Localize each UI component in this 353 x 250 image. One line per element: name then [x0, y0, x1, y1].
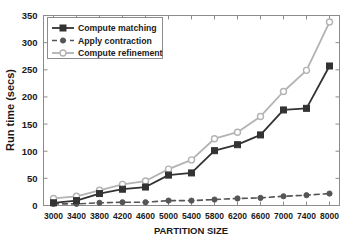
- data-point: [304, 67, 310, 73]
- data-point: [281, 194, 286, 199]
- line-chart: 050100150200250300350 300034003800420046…: [0, 0, 353, 250]
- data-point: [97, 191, 103, 197]
- data-point: [189, 198, 194, 203]
- data-point: [189, 170, 195, 176]
- x-tick-label: 5000: [159, 211, 178, 221]
- data-point: [258, 113, 264, 119]
- data-point: [281, 89, 287, 95]
- x-tick-label: 6200: [228, 211, 247, 221]
- x-tick-label: 4600: [136, 211, 155, 221]
- x-tick-label: 4200: [113, 211, 132, 221]
- legend-label: Compute refinement: [78, 48, 163, 58]
- y-tick-label: 50: [27, 173, 38, 184]
- x-tick-label: 8000: [320, 211, 339, 221]
- legend-label: Compute matching: [78, 23, 157, 33]
- x-tick-label: 3400: [67, 211, 86, 221]
- data-point: [304, 193, 309, 198]
- data-point: [235, 129, 241, 135]
- y-tick-label: 350: [22, 10, 38, 21]
- data-point: [212, 197, 217, 202]
- data-point: [327, 191, 332, 196]
- y-tick-label: 0: [32, 200, 37, 211]
- data-point: [327, 19, 333, 25]
- data-point: [97, 200, 102, 205]
- data-point: [143, 178, 149, 184]
- y-axis-title: Run time (secs): [4, 69, 16, 151]
- legend-marker: [60, 50, 66, 56]
- data-point: [74, 198, 80, 204]
- legend-marker: [60, 25, 66, 31]
- data-point: [304, 105, 310, 111]
- legend-label: Apply contraction: [78, 36, 152, 46]
- y-tick-label: 100: [22, 146, 38, 157]
- data-point: [166, 198, 171, 203]
- data-point: [120, 200, 125, 205]
- legend-marker: [60, 38, 65, 43]
- chart-legend: Compute matchingApply contractionCompute…: [48, 18, 163, 59]
- x-tick-label: 7400: [297, 211, 316, 221]
- data-point: [235, 142, 241, 148]
- data-point: [166, 172, 172, 178]
- data-point: [327, 63, 333, 69]
- y-tick-label: 300: [22, 37, 38, 48]
- chart-figure: 050100150200250300350 300034003800420046…: [0, 0, 353, 250]
- x-tick-label: 7000: [274, 211, 293, 221]
- y-tick-label: 200: [22, 91, 38, 102]
- x-tick-label: 6600: [251, 211, 270, 221]
- data-point: [258, 132, 264, 138]
- data-point: [281, 107, 287, 113]
- data-point: [212, 136, 218, 142]
- x-tick-label: 5800: [205, 211, 224, 221]
- x-axis-title: PARTITION SIZE: [154, 225, 228, 236]
- data-point: [189, 157, 195, 163]
- y-tick-label: 250: [22, 64, 38, 75]
- data-point: [120, 186, 126, 192]
- y-tick-label: 150: [22, 119, 38, 130]
- data-point: [51, 200, 57, 206]
- data-point: [212, 148, 218, 154]
- data-point: [258, 195, 263, 200]
- x-tick-label: 3800: [90, 211, 109, 221]
- x-tick-label: 3000: [44, 211, 63, 221]
- data-point: [143, 200, 148, 205]
- data-point: [166, 166, 172, 172]
- data-point: [143, 184, 149, 190]
- x-tick-label: 5400: [182, 211, 201, 221]
- data-point: [235, 196, 240, 201]
